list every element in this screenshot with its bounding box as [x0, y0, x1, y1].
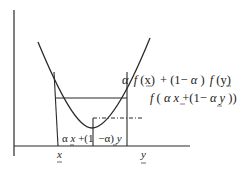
midpoint-label: α x +(1 −α) y: [62, 132, 122, 145]
convexity-diagram: α f (x) + (1− α ) f (y) f ( α x +(1− α y…: [0, 0, 244, 171]
x-tick-label: x: [56, 148, 62, 160]
y-tick-label: y: [140, 148, 146, 160]
function-value-label: f ( α x +(1− α y )): [150, 91, 237, 105]
chord-value-label: α f (x) + (1− α ) f (y): [122, 73, 231, 87]
